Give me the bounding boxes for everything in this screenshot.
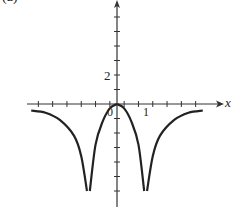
y-tick-label-2: 2 xyxy=(104,69,111,82)
axes xyxy=(27,0,224,207)
origin-label: 0 xyxy=(107,106,113,118)
curve-right-inner xyxy=(117,104,144,191)
plot-area xyxy=(0,0,236,215)
curve-left-outer xyxy=(31,111,87,191)
x-axis-name: x xyxy=(225,96,231,109)
x-tick-label-1: 1 xyxy=(143,106,149,118)
curve-right-outer xyxy=(147,111,203,191)
panel-label: (a) xyxy=(2,0,18,4)
